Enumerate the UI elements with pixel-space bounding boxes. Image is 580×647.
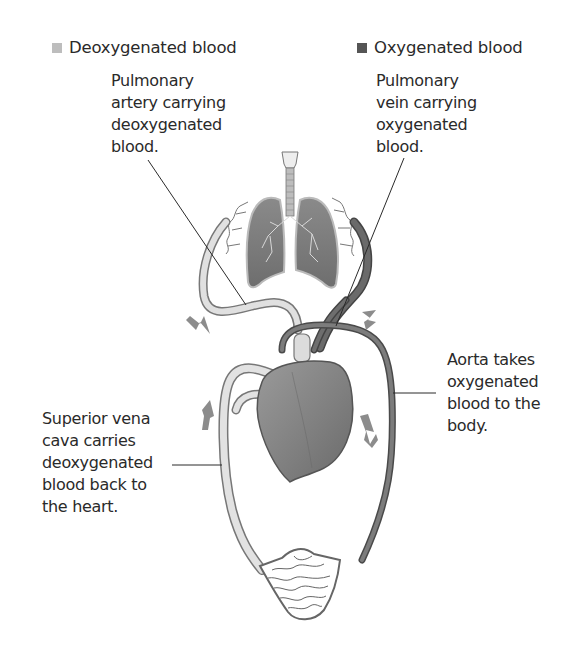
circulation-diagram bbox=[0, 0, 580, 647]
body-capillaries bbox=[260, 549, 340, 619]
leader-pulmonary-artery bbox=[148, 160, 246, 305]
leader-pulmonary-vein bbox=[336, 158, 404, 326]
arrow-up-left-icon bbox=[186, 316, 210, 334]
trachea bbox=[282, 152, 298, 216]
arrow-down-right-icon bbox=[360, 414, 378, 448]
pulmonary-trunk bbox=[294, 334, 310, 362]
heart bbox=[257, 361, 353, 482]
arrow-up-left-side-icon bbox=[202, 400, 214, 430]
arrow-down-left-icon bbox=[362, 310, 376, 330]
